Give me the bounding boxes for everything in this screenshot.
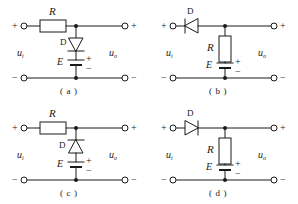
output-voltage-sub-b: o — [263, 53, 266, 59]
panel-caption-b: ( b ) — [209, 86, 227, 96]
diode-triangle-c — [69, 140, 83, 153]
resistor-label-d: R — [207, 144, 214, 155]
terminal-in-minus-b[interactable] — [170, 75, 176, 81]
battery-label-a: E — [57, 57, 63, 67]
panel-caption-a: ( a ) — [60, 86, 78, 96]
resistor-body-c — [40, 122, 66, 134]
junction-dot-top-b — [223, 24, 227, 28]
terminal-out-plus-b[interactable] — [271, 23, 277, 29]
terminal-in-plus-sign-c: + — [12, 123, 18, 133]
terminal-out-plus-sign-a: + — [131, 21, 137, 31]
battery-label-d: E — [206, 162, 212, 172]
junction-dot-bottom-a — [74, 76, 78, 80]
input-voltage-sub-c: i — [22, 155, 24, 161]
output-voltage-label-a: uo — [109, 48, 117, 58]
terminal-in-minus-sign-b: − — [161, 73, 167, 83]
terminal-in-plus-sign-a: + — [12, 21, 18, 31]
resistor-body-a — [40, 20, 66, 32]
diode-label-c: D — [59, 141, 66, 150]
terminal-out-plus-d[interactable] — [271, 125, 277, 131]
battery-minus-sign-a: − — [86, 64, 92, 74]
junction-dot-bottom-b — [223, 76, 227, 80]
terminal-in-plus-a[interactable] — [21, 23, 27, 29]
output-voltage-sub-a: o — [114, 53, 117, 59]
output-voltage-label-d: uo — [258, 150, 266, 160]
battery-minus-sign-c: − — [86, 166, 92, 176]
figure-grid: R D E + − + − + − ui uo ( a ) — [0, 0, 298, 204]
diode-triangle-b — [185, 19, 198, 33]
panel-caption-c: ( c ) — [60, 188, 78, 198]
junction-dot-top-d — [223, 126, 227, 130]
terminal-out-plus-c[interactable] — [122, 125, 128, 131]
terminal-in-plus-c[interactable] — [21, 125, 27, 131]
terminal-in-minus-sign-a: − — [12, 73, 18, 83]
terminal-out-minus-sign-a: − — [131, 73, 137, 83]
resistor-label-a: R — [49, 6, 56, 17]
terminal-out-minus-b[interactable] — [271, 75, 277, 81]
terminal-in-minus-d[interactable] — [170, 177, 176, 183]
input-voltage-sub-d: i — [171, 155, 173, 161]
input-voltage-label-a: ui — [17, 48, 24, 58]
output-voltage-label-b: uo — [258, 48, 266, 58]
diode-triangle-a — [69, 38, 83, 51]
output-voltage-sub-d: o — [263, 155, 266, 161]
diode-label-a: D — [60, 38, 67, 47]
terminal-in-plus-b[interactable] — [170, 23, 176, 29]
terminal-in-minus-c[interactable] — [21, 177, 27, 183]
resistor-body-d — [219, 138, 231, 164]
battery-label-c: E — [57, 159, 63, 169]
battery-label-b: E — [206, 60, 212, 70]
resistor-label-c: R — [49, 108, 56, 119]
battery-minus-sign-d: − — [235, 169, 241, 179]
terminal-in-minus-sign-d: − — [161, 175, 167, 185]
input-voltage-label-c: ui — [17, 150, 24, 160]
battery-minus-sign-b: − — [235, 67, 241, 77]
circuit-panel-a: R D E + − + − + − ui uo ( a ) — [0, 0, 149, 102]
diode-label-b: D — [187, 7, 194, 16]
resistor-body-b — [219, 36, 231, 62]
junction-dot-bottom-c — [74, 178, 78, 182]
input-voltage-label-b: ui — [166, 48, 173, 58]
input-voltage-sub-a: i — [22, 53, 24, 59]
terminal-out-minus-c[interactable] — [122, 177, 128, 183]
input-voltage-label-d: ui — [166, 150, 173, 160]
input-voltage-sub-b: i — [171, 53, 173, 59]
terminal-out-minus-d[interactable] — [271, 177, 277, 183]
terminal-out-minus-sign-b: − — [280, 73, 286, 83]
output-voltage-sub-c: o — [114, 155, 117, 161]
junction-dot-bottom-d — [223, 178, 227, 182]
diode-label-d: D — [187, 109, 194, 118]
terminal-out-plus-a[interactable] — [122, 23, 128, 29]
terminal-in-plus-sign-d: + — [161, 123, 167, 133]
panel-caption-d: ( d ) — [209, 188, 227, 198]
diode-triangle-d — [185, 121, 198, 135]
resistor-label-b: R — [207, 42, 214, 53]
output-voltage-label-c: uo — [109, 150, 117, 160]
circuit-panel-b: D R E + − + − + − ui uo ( b ) — [149, 0, 298, 102]
terminal-in-minus-a[interactable] — [21, 75, 27, 81]
terminal-out-minus-a[interactable] — [122, 75, 128, 81]
terminal-out-plus-sign-d: + — [280, 123, 286, 133]
terminal-in-plus-sign-b: + — [161, 21, 167, 31]
terminal-out-minus-sign-c: − — [131, 175, 137, 185]
terminal-out-plus-sign-b: + — [280, 21, 286, 31]
terminal-in-plus-d[interactable] — [170, 125, 176, 131]
terminal-out-minus-sign-d: − — [280, 175, 286, 185]
terminal-out-plus-sign-c: + — [131, 123, 137, 133]
terminal-in-minus-sign-c: − — [12, 175, 18, 185]
circuit-panel-c: R D E + − + − + − ui uo ( c ) — [0, 102, 149, 204]
junction-dot-top-c — [74, 126, 78, 130]
circuit-panel-d: D R E + − + − + − ui uo ( d ) — [149, 102, 298, 204]
junction-dot-top-a — [74, 24, 78, 28]
